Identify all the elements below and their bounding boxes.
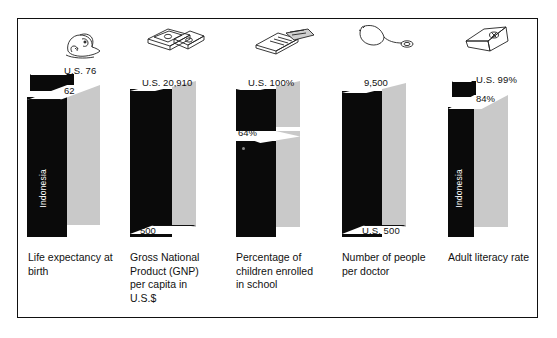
panel-people-per-doctor: 9,500 Indonesia U.S. 500 Number of peopl…	[342, 19, 442, 319]
us-value-label-3: U.S. 100%	[248, 77, 294, 88]
indonesia-axis-label-5: Indonesia	[454, 169, 464, 208]
caption-people-per-doctor: Number of people per doctor	[342, 251, 428, 278]
infographic-frame: U.S. 76 Indonesia 62 Life expectancy at …	[17, 18, 538, 318]
us-value-label-1: U.S. 76	[64, 65, 96, 76]
mother-and-baby-icon	[48, 25, 118, 61]
caption-school-enrollment: Percentage of children enrolled in schoo…	[236, 251, 322, 292]
us-value-label-4: U.S. 500	[362, 225, 400, 236]
us-value-label-5: U.S. 99%	[476, 74, 517, 85]
indonesia-value-label-1: 62	[64, 85, 75, 96]
caption-gnp: Gross National Product (GNP) per capita …	[130, 251, 216, 305]
panel-life-expectancy: U.S. 76 Indonesia 62 Life expectancy at …	[24, 19, 124, 319]
indonesia-value-label-5: 84%	[476, 93, 495, 104]
indonesia-value-label-2: 500	[140, 225, 156, 236]
caption-life-expectancy: Life expectancy at birth	[28, 251, 114, 278]
us-value-label-2: U.S. 20,910	[142, 77, 192, 88]
indonesia-value-label-4: 9,500	[364, 77, 388, 88]
caption-adult-literacy: Adult literacy rate	[448, 251, 534, 265]
stethoscope-icon	[352, 21, 422, 57]
indonesia-axis-label-3: Indonesia	[303, 179, 313, 218]
indonesia-axis-label-2: Indonesia	[199, 179, 209, 218]
open-book-icon	[252, 23, 322, 59]
indonesia-value-label-3: 64%	[238, 127, 257, 138]
indonesia-axis-label-4: Indonesia	[409, 179, 419, 218]
book-pages-icon	[460, 21, 530, 57]
highlight-dot	[242, 147, 245, 150]
indonesia-axis-label-1: Indonesia	[38, 169, 48, 208]
panel-adult-literacy: U.S. 99% 84% Indonesia Adult literacy ra…	[448, 19, 543, 319]
money-stack-icon	[140, 21, 210, 57]
panel-school-enrollment: U.S. 100% 64% Indonesia Percentage of ch…	[236, 19, 336, 319]
panel-gnp: U.S. 20,910 Indonesia 500 Gross National…	[130, 19, 230, 319]
